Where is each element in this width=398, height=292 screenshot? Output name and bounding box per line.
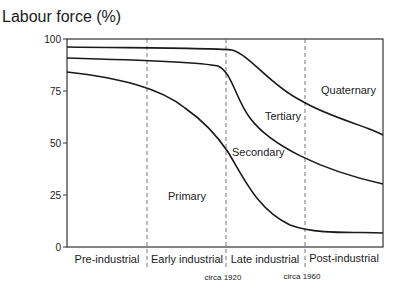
label-tertiary: Tertiary [265, 110, 302, 122]
y-tick-50: 50 [50, 138, 62, 149]
primary-secondary-curve [67, 72, 383, 233]
y-tick-25: 25 [50, 190, 62, 201]
label-secondary: Secondary [232, 146, 285, 158]
label-quaternary: Quaternary [321, 84, 377, 96]
era-late-industrial: Late industrial [231, 253, 300, 265]
era-early-industrial: Early industrial [151, 253, 223, 265]
y-tick-100: 100 [44, 34, 61, 45]
era-pre-industrial: Pre-industrial [75, 253, 140, 265]
y-tick-0: 0 [55, 242, 61, 253]
annotation-circa-1960: circa 1960 [284, 272, 321, 281]
secondary-tertiary-curve [67, 58, 383, 184]
y-tick-75: 75 [50, 86, 62, 97]
annotation-circa-1920: circa 1920 [205, 273, 242, 282]
labour-chart: 100 75 50 25 0 Quaternary Tertiary Secon… [0, 0, 398, 292]
label-primary: Primary [168, 190, 206, 202]
plot-frame [67, 39, 383, 247]
sector-curves [67, 47, 383, 233]
era-post-industrial: Post-industrial [309, 252, 379, 264]
